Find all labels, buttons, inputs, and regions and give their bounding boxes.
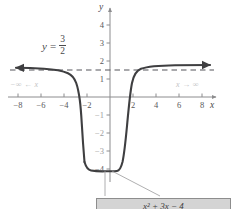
y-tick-label: 1 [100, 75, 104, 84]
y-tick-label: −1 [95, 111, 104, 120]
y-tick-label: 3 [100, 39, 104, 48]
asymptote-equation-label: y = 3 2 [42, 36, 66, 57]
y-tick-label: −2 [95, 129, 104, 138]
y-tick-label: −3 [95, 147, 104, 156]
right-limit-annotation: x → ∞ [176, 81, 199, 89]
x-axis [8, 94, 216, 98]
callout-formula-text: x² + 3x − 4 [143, 201, 184, 209]
x-tick-label: −4 [59, 101, 68, 110]
y-tick-label: −4 [95, 165, 104, 174]
x-tick-label: −2 [82, 101, 91, 110]
math-figure: −8 −6 −4 −2 2 4 6 8 4 3 2 1 −1 −2 −3 −4 … [0, 0, 232, 209]
asymptote-label-variable: y [42, 41, 47, 52]
y-tick-label: 2 [100, 57, 104, 66]
asymptote-label-fraction: 3 2 [59, 35, 66, 56]
asymptote-label-equals: = [49, 41, 57, 52]
x-tick-label: −6 [36, 101, 45, 110]
x-tick-label: 8 [200, 101, 204, 110]
x-tick-label: −8 [13, 101, 22, 110]
x-axis-label: x [210, 101, 214, 111]
y-axis [107, 8, 111, 182]
callout-leader-line [112, 171, 160, 196]
formula-callout-box: x² + 3x − 4 [96, 198, 231, 209]
x-tick-label: 4 [154, 101, 158, 110]
y-axis-label: y [99, 3, 103, 13]
fraction-numerator: 3 [60, 35, 65, 45]
left-limit-annotation: −∞ ← x [10, 81, 38, 89]
y-tick-label: 4 [100, 21, 104, 30]
x-tick-label: 6 [177, 101, 181, 110]
x-tick-label: 2 [131, 101, 135, 110]
fraction-denominator: 2 [60, 46, 65, 56]
function-plot [0, 0, 232, 209]
